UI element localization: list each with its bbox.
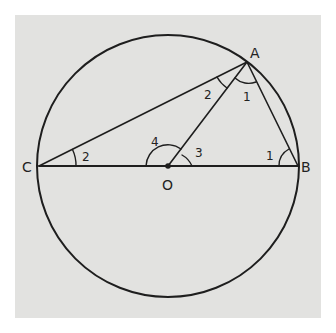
angle-label-o-4: 4 <box>151 135 159 149</box>
center-point-o <box>165 163 171 169</box>
angle-label-a-left: 2 <box>204 88 212 102</box>
label-b: B <box>301 159 311 175</box>
angle-label-a-right: 1 <box>243 90 251 104</box>
angle-arc-a-right <box>235 78 256 83</box>
angle-arc-b <box>279 149 289 166</box>
angle-label-o-3: 3 <box>195 146 203 160</box>
angle-label-c: 2 <box>82 150 90 164</box>
label-a: A <box>250 45 260 61</box>
label-c: C <box>22 159 32 175</box>
circle-triangle-diagram: A B C O 2 2 1 1 4 3 <box>0 0 336 333</box>
angle-label-b: 1 <box>266 149 274 163</box>
label-o: O <box>162 177 173 193</box>
angle-arc-a-left <box>217 77 227 88</box>
angle-arc-o-3 <box>182 155 192 166</box>
angle-arc-c <box>73 150 77 167</box>
